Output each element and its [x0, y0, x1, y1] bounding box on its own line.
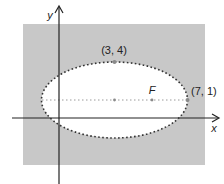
vertex-label: (7, 1)	[191, 85, 217, 97]
ellipse-diagram: (3, 4) F (7, 1) x y	[0, 0, 224, 184]
vertex-point	[186, 98, 190, 102]
co-vertex-label: (3, 4)	[101, 44, 127, 56]
x-axis-label: x	[210, 122, 217, 134]
focus-point	[151, 99, 154, 102]
co-vertex-point	[113, 60, 117, 64]
center-point	[113, 99, 116, 102]
y-axis-label: y	[46, 9, 54, 21]
